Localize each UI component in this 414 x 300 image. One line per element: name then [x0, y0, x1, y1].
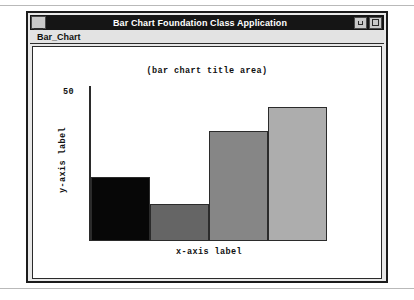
bar-1	[91, 177, 150, 241]
bar-4	[268, 107, 327, 241]
window-controls	[354, 17, 382, 29]
maximize-glyph	[372, 19, 379, 26]
bar-3	[209, 131, 268, 241]
minimize-glyph	[358, 21, 363, 25]
maximize-icon[interactable]	[369, 17, 382, 29]
chart-canvas: (bar chart title area) 50 y-axis label x…	[32, 46, 382, 279]
capture-bottom-rule	[0, 288, 414, 289]
title-bar: Bar Chart Foundation Class Application	[30, 15, 384, 30]
y-axis-tick-label: 50	[63, 87, 74, 97]
menu-bar: Bar_Chart	[30, 30, 384, 44]
bar-2	[150, 204, 209, 241]
plot-area	[91, 86, 327, 241]
window-menu-icon[interactable]	[31, 16, 46, 29]
menu-item-bar-chart[interactable]: Bar_Chart	[32, 31, 86, 43]
minimize-icon[interactable]	[354, 17, 367, 29]
capture-top-rule	[0, 5, 414, 6]
window-title: Bar Chart Foundation Class Application	[46, 18, 354, 28]
y-axis-label: y-axis label	[58, 118, 68, 202]
chart-title: (bar chart title area)	[33, 66, 381, 76]
application-window: Bar Chart Foundation Class Application B…	[26, 11, 388, 283]
x-axis-label: x-axis label	[89, 247, 329, 257]
